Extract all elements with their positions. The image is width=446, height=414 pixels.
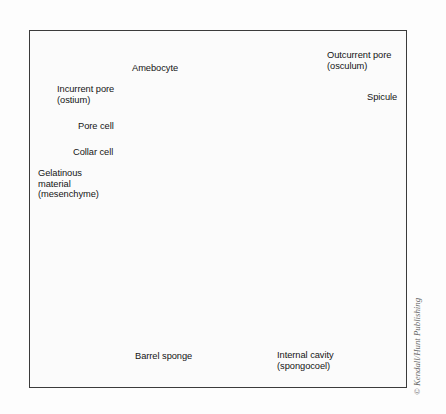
credit-wrapper: © Kendall/Hunt Publishing xyxy=(412,250,434,395)
label-amebocyte: Amebocyte xyxy=(132,63,178,74)
label-barrel-sponge: Barrel sponge xyxy=(135,351,192,362)
label-gelatinous-material: Gelatinous material (mesenchyme) xyxy=(38,168,99,200)
label-pore-cell: Pore cell xyxy=(78,121,114,132)
label-outcurrent-pore: Outcurrent pore (osculum) xyxy=(327,50,391,71)
label-internal-cavity: Internal cavity (spongocoel) xyxy=(277,350,334,371)
publisher-credit: © Kendall/Hunt Publishing xyxy=(412,250,434,395)
label-incurrent-pore: Incurrent pore (ostium) xyxy=(57,84,114,105)
label-collar-cell: Collar cell xyxy=(73,147,113,158)
label-spicule: Spicule xyxy=(367,92,397,103)
figure-root: Amebocyte Incurrent pore (ostium) Pore c… xyxy=(0,0,446,414)
